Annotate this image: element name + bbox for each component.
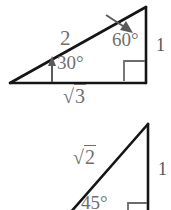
label-bottom-hypotenuse-radicand: 2 [84, 145, 96, 168]
label-top-vertical: 1 [156, 36, 165, 54]
label-top-base-radicand: 3 [74, 84, 86, 107]
label-bottom-hypotenuse: √2 [73, 147, 96, 167]
label-angle-45: 45° [81, 193, 108, 210]
radical-sign-bottom: √ [73, 147, 84, 167]
radical-sign-top: √ [63, 86, 74, 106]
label-angle-30: 30° [57, 53, 84, 72]
label-top-base: √3 [63, 86, 86, 106]
right-angle-marker-bottom [128, 203, 147, 210]
label-bottom-vertical: 1 [158, 160, 167, 178]
label-top-hypotenuse: 2 [60, 28, 71, 49]
label-angle-60: 60° [112, 30, 139, 49]
right-angle-marker-top [124, 61, 145, 81]
math-figure: 2 30° 60° √3 1 √2 45° 1 [0, 0, 171, 210]
